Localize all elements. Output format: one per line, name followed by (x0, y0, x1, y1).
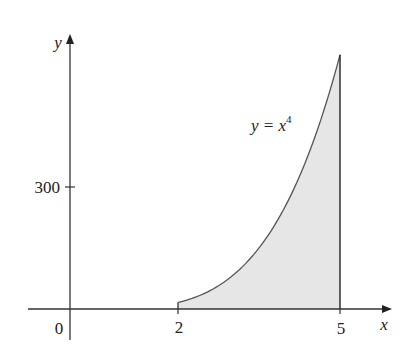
function-annotation: y = x4 (249, 113, 292, 135)
y-tick-label-300: 300 (35, 178, 61, 197)
shaded-region (178, 55, 340, 309)
function-annotation-main: y = x (249, 116, 287, 135)
y-axis-label: y (52, 33, 62, 52)
x-tick-label-0: 0 (55, 319, 64, 338)
x-tick-label-2: 2 (175, 318, 184, 337)
x-axis-label: x (379, 315, 388, 334)
x-tick-label-5: 5 (337, 319, 346, 338)
function-annotation-exponent: 4 (286, 113, 292, 125)
chart: 300 0 2 5 x y y = x4 (0, 0, 403, 358)
